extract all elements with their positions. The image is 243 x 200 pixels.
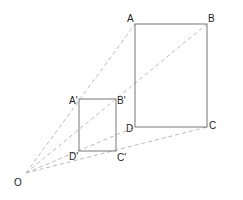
label-C: C xyxy=(209,120,216,131)
label-A: A xyxy=(127,13,134,24)
label-O: O xyxy=(14,177,22,188)
label-D-prime: D' xyxy=(69,151,78,162)
label-B: B xyxy=(208,13,215,24)
label-D: D xyxy=(126,123,133,134)
label-A-prime: A' xyxy=(69,95,78,106)
label-C-prime: C' xyxy=(117,152,126,163)
label-B-prime: B' xyxy=(117,95,126,106)
large-rectangle-ABCD xyxy=(135,24,207,127)
diagram-canvas: A B C D A' B' C' D' O xyxy=(0,0,243,200)
homothety-diagram: A B C D A' B' C' D' O xyxy=(0,0,243,200)
